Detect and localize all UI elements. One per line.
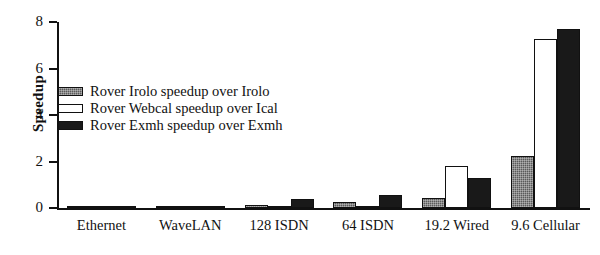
legend-swatch-icon: [58, 121, 83, 130]
x-axis-tick-label: 9.6 Cellular: [501, 217, 590, 234]
bar-group: [422, 22, 491, 208]
x-axis-tick-label: 128 ISDN: [235, 217, 324, 234]
bar: [422, 198, 445, 208]
x-axis-line: [57, 208, 590, 210]
y-axis-tick: [49, 207, 57, 209]
legend-label: Rover Irolo speedup over Irolo: [90, 84, 270, 99]
legend-swatch-icon: [58, 87, 83, 96]
bar: [468, 178, 491, 208]
x-axis-tick-label: 64 ISDN: [324, 217, 413, 234]
bar: [179, 206, 202, 209]
y-axis-tick-label: 4: [3, 107, 43, 122]
y-axis-tick: [49, 161, 57, 163]
chart-legend: Rover Irolo speedup over IroloRover Webc…: [58, 83, 338, 134]
y-axis-tick-label: 8: [3, 14, 43, 29]
bar: [511, 156, 534, 208]
bar: [379, 195, 402, 208]
legend-label: Rover Webcal speedup over Ical: [90, 101, 278, 116]
legend-label: Rover Exmh speedup over Exmh: [90, 118, 283, 133]
bar: [445, 166, 468, 208]
legend-item: Rover Webcal speedup over Ical: [58, 100, 338, 116]
legend-swatch-icon: [58, 104, 83, 113]
x-axis-tick-labels: EthernetWaveLAN128 ISDN64 ISDN19.2 Wired…: [57, 213, 590, 243]
legend-item: Rover Irolo speedup over Irolo: [58, 83, 338, 99]
y-axis-tick: [49, 68, 57, 70]
bar: [291, 199, 314, 208]
y-axis-tick-label: 0: [3, 200, 43, 215]
bar: [156, 206, 179, 209]
bar: [333, 202, 356, 208]
y-axis-tick-labels: 02468: [3, 22, 43, 210]
bar: [245, 205, 268, 208]
bar: [67, 206, 90, 209]
legend-item: Rover Exmh speedup over Exmh: [58, 117, 338, 133]
x-axis-tick-label: Ethernet: [57, 217, 146, 234]
y-axis-tick-label: 2: [3, 154, 43, 169]
y-axis-tick: [49, 114, 57, 116]
bar: [268, 206, 291, 209]
bar-chart-figure: Speedup 02468 EthernetWaveLAN128 ISDN64 …: [0, 0, 600, 255]
bar: [90, 206, 113, 209]
bar: [557, 29, 580, 208]
bar: [356, 206, 379, 209]
y-axis-tick-label: 6: [3, 61, 43, 76]
x-axis-tick-label: WaveLAN: [146, 217, 235, 234]
x-axis-tick-label: 19.2 Wired: [412, 217, 501, 234]
y-axis-tick: [49, 21, 57, 23]
bar-group: [511, 22, 580, 208]
bar: [202, 206, 225, 209]
bar-group: [333, 22, 402, 208]
bar: [113, 206, 136, 209]
bar: [534, 39, 557, 208]
